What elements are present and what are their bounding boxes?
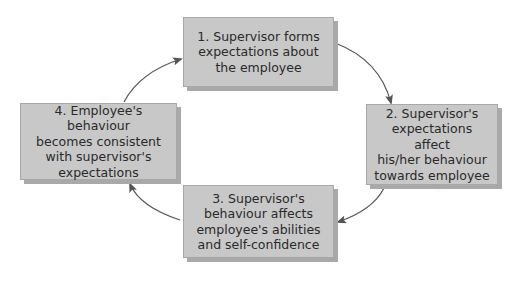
step-3-line: behaviour affects	[196, 206, 320, 222]
arrow-3-to-4	[130, 184, 180, 220]
step-3-line: employee's abilities	[196, 222, 320, 238]
step-2-line: expectations affect	[373, 121, 491, 152]
step-1-line: expectations about	[197, 44, 319, 60]
step-1-box: 1. Supervisor forms expectations about t…	[183, 17, 334, 87]
step-4-box: 4. Employee's behaviour becomes consiste…	[20, 103, 177, 180]
step-2-line: his/her behaviour	[373, 152, 491, 168]
arrow-2-to-3	[338, 188, 384, 222]
step-2-box: 2. Supervisor's expectations affect his/…	[366, 104, 498, 185]
step-3-box: 3. Supervisor's behaviour affects employ…	[183, 185, 334, 258]
step-4-line: 4. Employee's behaviour	[27, 103, 170, 134]
arrow-4-to-1	[124, 59, 181, 102]
step-2-line: 2. Supervisor's	[373, 106, 491, 122]
step-3-line: and self-confidence	[196, 237, 320, 253]
step-3-line: 3. Supervisor's	[196, 191, 320, 207]
step-4-line: expectations	[27, 165, 170, 181]
arrow-1-to-2	[335, 43, 391, 103]
step-4-line: with supervisor's	[27, 149, 170, 165]
step-1-line: the employee	[197, 60, 319, 76]
step-2-line: towards employee	[373, 168, 491, 184]
step-1-line: 1. Supervisor forms	[197, 29, 319, 45]
step-4-line: becomes consistent	[27, 134, 170, 150]
